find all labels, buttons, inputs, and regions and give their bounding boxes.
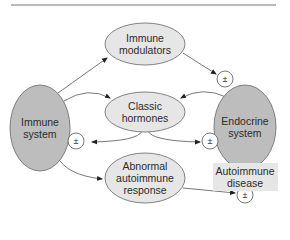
classic-hormones-line1: Classic — [122, 100, 169, 112]
edge-immune-to-hormones — [64, 93, 110, 101]
edge-hormones-to-endocrine — [148, 131, 200, 142]
abnormal-response-line2: autoimmune — [116, 172, 174, 184]
classic-hormones-line2: hormones — [122, 112, 169, 124]
abnormal-response-line1: Abnormal — [116, 160, 174, 172]
autoimmune-disease-line1: Autoimmune — [216, 165, 275, 177]
immune-system-line1: Immune — [21, 116, 59, 128]
plus-minus-icon: ± — [243, 190, 248, 200]
endocrine-system-line1: Endocrine — [221, 115, 268, 127]
immune-modulators-line2: modulators — [119, 44, 171, 56]
autoimmune-disease-line2: disease — [216, 177, 275, 189]
abnormal-response-line3: response — [116, 184, 174, 196]
endocrine-system-line2: system — [221, 127, 268, 139]
endocrine-system-label: Endocrine system — [221, 115, 268, 139]
edge-immune-to-modulators — [58, 58, 107, 93]
abnormal-response-label: Abnormal autoimmune response — [116, 160, 174, 196]
plus-minus-icon: ± — [74, 136, 79, 146]
immune-system-label: Immune system — [21, 116, 59, 140]
plus-minus-icon: ± — [208, 136, 213, 146]
classic-hormones-label: Classic hormones — [122, 100, 169, 124]
edge-modulators-to-endocrine — [183, 53, 216, 74]
immune-modulators-line1: Immune — [119, 32, 171, 44]
edge-hormones-to-immune — [92, 131, 142, 142]
plus-minus-icon: ± — [223, 74, 228, 84]
immune-modulators-label: Immune modulators — [119, 32, 171, 56]
immune-system-line2: system — [21, 128, 59, 140]
edge-immune-to-abnormal — [57, 156, 102, 179]
edge-endocrine-to-hormones — [181, 92, 226, 98]
autoimmune-disease-label: Autoimmune disease — [216, 165, 275, 189]
